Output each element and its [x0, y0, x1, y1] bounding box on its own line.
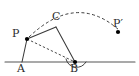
- point-label-a: A: [17, 63, 25, 74]
- point-label-p: P: [12, 28, 19, 39]
- segment-p-c: [27, 27, 56, 39]
- point-label-p-prime: P′: [113, 18, 123, 29]
- point-label-c: C: [52, 11, 60, 22]
- rotation-arc: [29, 13, 119, 37]
- segment-p-a: [22, 39, 27, 62]
- point-dot-pp: [116, 30, 120, 34]
- segment-p-b-dashed: [27, 39, 75, 62]
- point-dots: [25, 30, 120, 64]
- point-dot-p: [25, 37, 29, 41]
- point-label-b: B: [70, 63, 78, 74]
- geometry-figure: A B C P P′: [0, 0, 139, 76]
- segment-c-b: [56, 27, 75, 62]
